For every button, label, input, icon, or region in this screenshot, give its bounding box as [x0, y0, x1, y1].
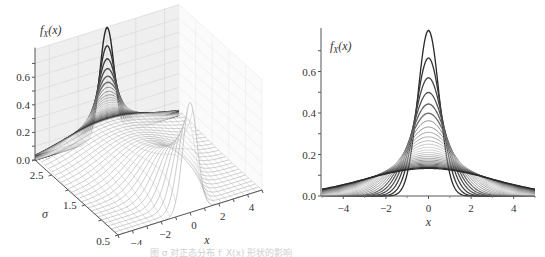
z-tick-label: 0.6 [16, 71, 30, 83]
sigma-tick [98, 220, 101, 221]
y-tick-label: 0.4 [302, 107, 316, 119]
x-tick [176, 217, 177, 220]
x-tick [132, 231, 133, 234]
x-tick [204, 208, 205, 211]
x-axis-label: x [425, 215, 432, 229]
x-tick [147, 226, 148, 229]
x-tick-label: 4 [249, 201, 255, 213]
z-axis-label: fX(x) [40, 23, 62, 39]
y-tick-label: 0.2 [302, 149, 316, 161]
sigma-tick-label: 2.5 [30, 169, 44, 181]
line-plot-2d: 0.00.20.40.6−4−2024xfX(x) [272, 0, 545, 245]
z-tick-label: 0.0 [16, 154, 30, 166]
x-tick [248, 195, 249, 198]
figure-caption: 图 σ 对正态分布 f_X(x) 形状的影响 [150, 246, 410, 257]
x-tick-label: −2 [380, 202, 392, 214]
x-tick [233, 199, 234, 202]
x-tick-label: 0 [426, 202, 432, 214]
x-tick-label: 4 [511, 202, 517, 214]
sigma-tick [82, 205, 85, 206]
x-tick [262, 190, 263, 193]
sigma-tick-label: 0.5 [96, 235, 110, 245]
x-tick-label: −4 [131, 237, 143, 246]
x-axis-label: x [203, 233, 210, 245]
pdf-curves [322, 30, 535, 196]
x-tick [118, 235, 119, 238]
sigma-tick [49, 175, 52, 176]
y-axis-label: fX(x) [330, 39, 352, 55]
sigma-tick-label: 1.5 [63, 199, 77, 211]
x-tick [190, 213, 191, 216]
z-tick-label: 0.2 [16, 126, 30, 138]
x-tick-label: 2 [220, 210, 226, 222]
surface-plot-canvas: 0.00.20.40.62.51.50.5−4−2024xσfX(x) [0, 0, 272, 245]
sigma-tick [115, 235, 118, 236]
z-tick-label: 0.4 [16, 99, 30, 111]
surface-plot-3d: 0.00.20.40.62.51.50.5−4−2024xσfX(x) [0, 0, 272, 245]
sigma-axis-label: σ [42, 207, 49, 221]
sigma-tick [65, 190, 68, 191]
y-tick-label: 0.6 [302, 66, 316, 78]
x-tick [161, 222, 162, 225]
x-tick [219, 204, 220, 207]
x-tick-label: −2 [159, 228, 171, 240]
x-tick-label: 0 [191, 219, 197, 231]
line-plot-canvas: 0.00.20.40.6−4−2024xfX(x) [272, 0, 545, 245]
x-tick-label: −4 [337, 202, 349, 214]
x-tick-label: 2 [468, 202, 474, 214]
y-tick-label: 0.0 [302, 190, 316, 202]
